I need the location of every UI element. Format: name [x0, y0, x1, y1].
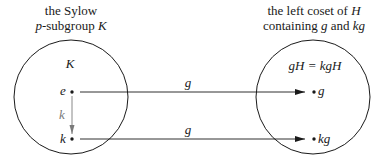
point-e-label: e: [58, 83, 68, 98]
point-kg-label: kg: [318, 131, 338, 146]
arrow-top-label: g: [182, 75, 194, 90]
arrow-e-to-k-head: [70, 125, 75, 134]
point-kg-dot: [312, 137, 315, 140]
point-g-dot: [312, 90, 315, 93]
right-caption: the left coset of H containing g and kg: [253, 3, 375, 33]
right-caption-line2: containing g and kg: [253, 18, 375, 33]
point-g-label: g: [318, 83, 330, 98]
left-caption-line2: p-subgroup K: [16, 18, 126, 33]
point-k-dot: [70, 137, 73, 140]
right-caption-line1: the left coset of H: [253, 3, 375, 18]
right-set-label: gH = kgH: [283, 58, 347, 73]
point-e-dot: [70, 90, 73, 93]
arrow-bottom-label: g: [182, 122, 194, 137]
left-set-label: K: [60, 56, 80, 71]
left-caption: the Sylow p-subgroup K: [16, 3, 126, 33]
internal-arrow-label: k: [57, 107, 67, 122]
left-caption-line1: the Sylow: [16, 3, 126, 18]
point-k-label: k: [58, 131, 68, 146]
